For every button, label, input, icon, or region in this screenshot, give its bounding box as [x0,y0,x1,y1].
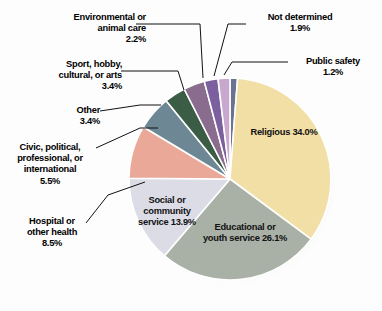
callout-public-safety-line1: Public safety [306,56,360,66]
callout-public-safety: Public safety 1.2% [290,56,376,78]
callout-environmental-line2: animal care [98,23,146,33]
callout-sport-hobby-cultural-or-arts: Sport, hobby, cultural, or arts 3.4% [12,59,122,93]
callout-hospital-or-other-health: Hospital or other health 8.5% [4,216,100,250]
slice-label-educational-line1: Educational or [214,222,275,232]
callout-other: Other 3.4% [10,105,100,127]
slice-label-educational-or-youth-service: Educational or youth service 26.1% [196,222,294,244]
callout-public-safety-pct: 1.2% [290,67,376,78]
callout-hospital-pct: 8.5% [4,238,100,249]
leader-line-sport [121,71,184,90]
callout-hospital-line1: Hospital or [29,216,75,226]
callout-not-determined-line1: Not determined [268,12,333,22]
slice-label-religious-pct: 34.0% [292,127,317,137]
leader-line-environmental [136,24,203,78]
callout-sport-pct: 3.4% [12,81,122,92]
slice-label-social-line3: service [138,217,168,227]
callout-not-determined-pct: 1.9% [248,23,352,34]
callout-sport-line2: cultural, or arts [59,70,122,80]
callout-hospital-line2: other health [27,227,77,237]
callout-other-line1: Other [76,105,100,115]
slice-label-social-or-community-service: Social or community service 13.9% [126,195,208,229]
callout-civic-line3: international [24,164,77,174]
leader-line-not-determined [214,24,246,76]
slice-label-social-line1: Social or [148,195,185,205]
leader-line-other [100,105,161,111]
callout-environmental-or-animal-care: Environmental or animal care 2.2% [28,12,146,46]
callout-civic-line2: professional, or [17,153,83,163]
callout-sport-line1: Sport, hobby, [66,59,122,69]
slice-label-educational-line2: youth service [203,233,260,243]
pie-chart-figure: Environmental or animal care 2.2% Sport,… [0,0,382,311]
callout-civic-line1: Civic, political, [20,142,81,152]
callout-environmental-pct: 2.2% [28,34,146,45]
leader-line-public-safety [224,62,288,75]
callout-civic-pct: 5.5% [2,176,98,187]
slice-label-religious: Religious 34.0% [244,127,324,138]
slice-label-social-line2: community [143,206,190,216]
slice-label-social-pct: 13.9% [171,217,196,227]
slice-label-religious-name: Religious [250,127,290,137]
slice-label-educational-pct: 26.1% [262,233,287,243]
callout-not-determined: Not determined 1.9% [248,12,352,34]
callout-environmental-line1: Environmental or [74,12,146,22]
pie-slices-group [129,78,331,280]
callout-civic-political-professional-international: Civic, political, professional, or inter… [2,142,98,187]
callout-other-pct: 3.4% [10,116,100,127]
